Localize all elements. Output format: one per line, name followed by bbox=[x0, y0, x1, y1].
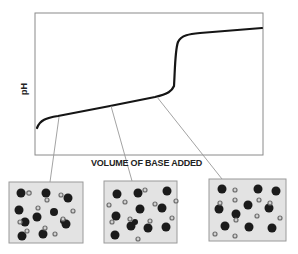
callout-line-2 bbox=[111, 106, 132, 181]
diagram-canvas bbox=[0, 0, 298, 254]
plot-frame bbox=[35, 13, 263, 155]
titration-curve bbox=[37, 28, 262, 128]
particle-panel-2 bbox=[104, 181, 178, 243]
y-axis-label: pH bbox=[19, 83, 29, 95]
particle-panel-1 bbox=[9, 182, 83, 243]
callout-line-1 bbox=[50, 117, 59, 182]
titration-diagram: pH VOLUME OF BASE ADDED bbox=[0, 0, 298, 254]
x-axis-label: VOLUME OF BASE ADDED bbox=[91, 158, 202, 168]
particle-panel-3 bbox=[209, 179, 286, 241]
